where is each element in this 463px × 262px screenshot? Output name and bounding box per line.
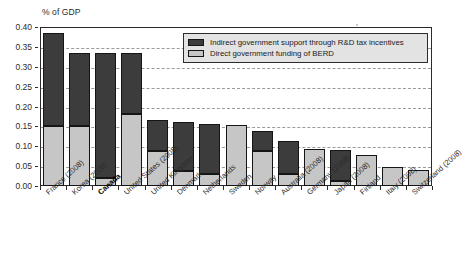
legend-item-indirect: Indirect government support through R&D … xyxy=(188,37,423,48)
bar-segment-indirect xyxy=(121,53,142,114)
y-tick-label: 0.15 xyxy=(15,121,32,131)
bar-segment-indirect xyxy=(69,53,90,126)
legend-label-indirect: Indirect government support through R&D … xyxy=(210,38,404,47)
bar-group[interactable] xyxy=(43,27,64,186)
y-tick-label: 0.00 xyxy=(15,181,32,191)
y-tick-mark xyxy=(35,87,38,88)
y-tick-mark xyxy=(35,27,38,28)
y-tick-label: 0.05 xyxy=(15,161,32,171)
bar-segment-indirect xyxy=(95,53,116,177)
chart-legend: Indirect government support through R&D … xyxy=(183,33,428,63)
legend-swatch-direct-icon xyxy=(188,50,204,57)
y-tick-mark xyxy=(35,67,38,68)
y-tick-mark xyxy=(35,107,38,108)
y-tick-mark xyxy=(35,126,38,127)
y-tick-label: 0.20 xyxy=(15,102,32,112)
bar-segment-indirect xyxy=(147,120,168,151)
x-axis-labels: France (2008)Korea (2008)CanadaUnited St… xyxy=(40,190,432,262)
bar-segment-indirect xyxy=(199,124,220,174)
y-tick-mark xyxy=(35,146,38,147)
y-tick-label: 0.30 xyxy=(15,62,32,72)
y-tick-mark xyxy=(35,166,38,167)
legend-swatch-indirect-icon xyxy=(188,39,204,46)
bar-segment-indirect xyxy=(43,33,64,126)
scan-speck xyxy=(356,24,358,26)
y-axis-title: % of GDP xyxy=(42,7,81,17)
y-tick-mark xyxy=(35,47,38,48)
y-tick-mark xyxy=(35,186,38,187)
legend-item-direct: Direct government funding of BERD xyxy=(188,48,423,59)
y-tick-label: 0.35 xyxy=(15,42,32,52)
y-axis: 0.000.050.100.150.200.250.300.350.40 xyxy=(0,27,38,186)
legend-label-direct: Direct government funding of BERD xyxy=(210,49,334,58)
x-tick-mark xyxy=(432,186,433,190)
y-tick-label: 0.40 xyxy=(15,22,32,32)
y-tick-label: 0.10 xyxy=(15,141,32,151)
bar-segment-indirect xyxy=(278,141,299,174)
y-tick-label: 0.25 xyxy=(15,82,32,92)
bar-segment-indirect xyxy=(252,131,273,151)
bar-group[interactable] xyxy=(121,27,142,186)
